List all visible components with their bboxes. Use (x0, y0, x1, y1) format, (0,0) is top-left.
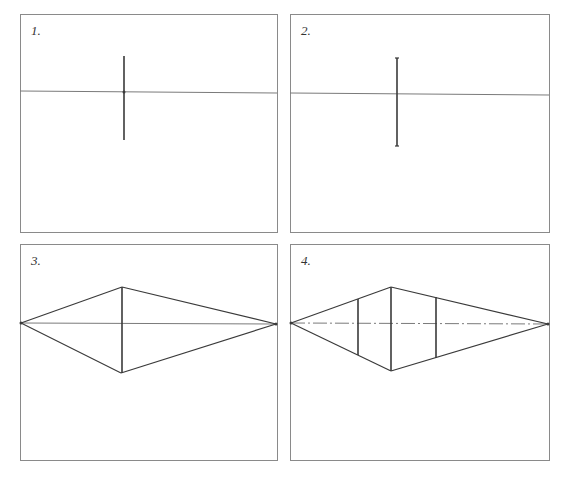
perspective-edge (21, 323, 121, 373)
perspective-edge (391, 287, 548, 324)
vanishing-point (290, 322, 293, 325)
perspective-edge (291, 287, 391, 323)
perspective-edge (121, 324, 276, 373)
perspective-edge (122, 287, 276, 324)
perspective-edge (291, 323, 391, 371)
vanishing-point (20, 322, 23, 325)
horizon-lines (20, 91, 549, 324)
perspective-edges (21, 287, 548, 373)
horizon-line (291, 323, 548, 324)
vanishing-point (547, 323, 550, 326)
vertical-edges (122, 56, 436, 373)
horizon-line (290, 93, 549, 95)
horizon-line (20, 91, 277, 93)
horizon-line (21, 323, 276, 324)
perspective-edge (391, 324, 548, 371)
drawing-canvas (0, 0, 573, 483)
intersection-point (123, 91, 126, 94)
vanishing-point (275, 323, 278, 326)
perspective-edge (21, 287, 122, 323)
vanishing-points (20, 91, 550, 326)
